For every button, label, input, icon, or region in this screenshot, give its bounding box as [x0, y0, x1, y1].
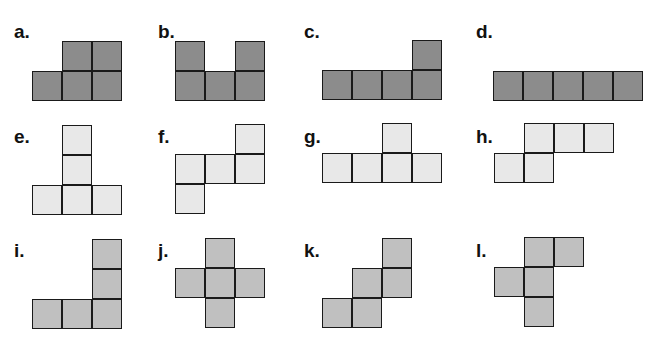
square-cell	[92, 71, 122, 101]
square-cell	[523, 71, 553, 101]
square-cell	[382, 70, 412, 100]
square-cell	[524, 237, 554, 267]
square-cell	[524, 267, 554, 297]
square-cell	[32, 185, 62, 215]
square-cell	[175, 154, 205, 184]
square-cell	[175, 71, 205, 101]
shape-label: h.	[476, 127, 493, 146]
shape-label: f.	[158, 127, 170, 146]
square-cell	[62, 155, 92, 185]
square-cell	[92, 41, 122, 71]
square-cell	[584, 123, 614, 153]
shape-label: l.	[476, 241, 487, 260]
square-cell	[62, 185, 92, 215]
square-cell	[205, 298, 235, 328]
square-cell	[524, 153, 554, 183]
square-cell	[92, 269, 122, 299]
square-cell	[235, 71, 265, 101]
square-cell	[352, 298, 382, 328]
square-cell	[175, 41, 205, 71]
square-cell	[62, 125, 92, 155]
shape-label: c.	[304, 22, 320, 41]
square-cell	[322, 70, 352, 100]
square-cell	[235, 268, 265, 298]
square-cell	[382, 238, 412, 268]
square-cell	[92, 239, 122, 269]
square-cell	[613, 71, 643, 101]
shape-label: i.	[14, 241, 25, 260]
square-cell	[205, 154, 235, 184]
shape-label: j.	[158, 241, 169, 260]
square-cell	[494, 267, 524, 297]
shape-label: a.	[14, 22, 30, 41]
square-cell	[175, 184, 205, 214]
shape-label: k.	[304, 241, 320, 260]
square-cell	[92, 299, 122, 329]
square-cell	[235, 41, 265, 71]
square-cell	[92, 185, 122, 215]
square-cell	[554, 237, 584, 267]
square-cell	[32, 299, 62, 329]
square-cell	[524, 297, 554, 327]
square-cell	[32, 71, 62, 101]
square-cell	[62, 41, 92, 71]
square-cell	[62, 299, 92, 329]
square-cell	[205, 268, 235, 298]
square-cell	[412, 153, 442, 183]
shape-label: g.	[304, 127, 321, 146]
square-cell	[352, 153, 382, 183]
square-cell	[235, 154, 265, 184]
shape-label: e.	[14, 127, 30, 146]
square-cell	[494, 153, 524, 183]
square-cell	[175, 268, 205, 298]
shape-label: d.	[476, 22, 493, 41]
square-cell	[412, 40, 442, 70]
square-cell	[205, 238, 235, 268]
shape-label: b.	[158, 22, 175, 41]
square-cell	[322, 153, 352, 183]
square-cell	[382, 153, 412, 183]
square-cell	[583, 71, 613, 101]
square-cell	[352, 70, 382, 100]
square-cell	[554, 123, 584, 153]
square-cell	[322, 298, 352, 328]
square-cell	[553, 71, 583, 101]
square-cell	[382, 123, 412, 153]
square-cell	[524, 123, 554, 153]
square-cell	[382, 268, 412, 298]
square-cell	[235, 124, 265, 154]
square-cell	[62, 71, 92, 101]
square-cell	[352, 268, 382, 298]
square-cell	[493, 71, 523, 101]
square-cell	[412, 70, 442, 100]
square-cell	[205, 71, 235, 101]
